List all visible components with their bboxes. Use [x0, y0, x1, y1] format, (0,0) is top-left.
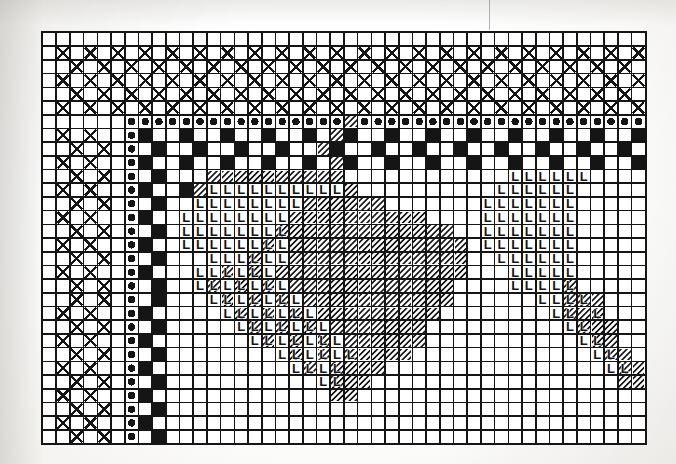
svg-text:L: L — [306, 361, 314, 376]
svg-text:L: L — [484, 237, 492, 252]
svg-text:L: L — [210, 292, 218, 307]
scan-shadow-top — [0, 0, 676, 26]
svg-text:L: L — [333, 374, 341, 389]
svg-text:L: L — [621, 361, 629, 376]
scan-artifact-line — [489, 0, 490, 30]
svg-text:L: L — [265, 333, 273, 348]
svg-text:L: L — [607, 361, 615, 376]
svg-text:L: L — [237, 319, 245, 334]
svg-text:L: L — [182, 237, 190, 252]
svg-text:L: L — [580, 333, 588, 348]
svg-text:L: L — [196, 237, 204, 252]
svg-text:L: L — [278, 251, 286, 266]
svg-text:L: L — [593, 306, 601, 321]
svg-text:L: L — [566, 319, 574, 334]
svg-text:L: L — [552, 306, 560, 321]
svg-text:L: L — [319, 374, 327, 389]
svg-text:L: L — [347, 347, 355, 362]
svg-text:L: L — [306, 182, 314, 197]
svg-text:L: L — [196, 278, 204, 293]
pattern-chart-svg: LLLLLLLLLLLLLLLLLLLLLLLLLLLLLLLLLLLLLLLL… — [41, 31, 647, 445]
svg-text:L: L — [539, 292, 547, 307]
svg-text:L: L — [580, 169, 588, 184]
svg-text:L: L — [292, 361, 300, 376]
svg-text:L: L — [497, 251, 505, 266]
scanned-page: LLLLLLLLLLLLLLLLLLLLLLLLLLLLLLLLLLLLLLLL… — [0, 0, 676, 464]
scan-shadow-left — [0, 0, 44, 464]
svg-text:L: L — [319, 182, 327, 197]
svg-text:L: L — [223, 306, 231, 321]
svg-text:L: L — [333, 182, 341, 197]
svg-text:L: L — [251, 333, 259, 348]
pattern-chart: LLLLLLLLLLLLLLLLLLLLLLLLLLLLLLLLLLLLLLLL… — [41, 31, 647, 445]
svg-text:L: L — [292, 196, 300, 211]
svg-text:L: L — [580, 292, 588, 307]
svg-text:L: L — [511, 278, 519, 293]
svg-text:L: L — [593, 347, 601, 362]
svg-text:L: L — [525, 278, 533, 293]
svg-text:L: L — [278, 347, 286, 362]
